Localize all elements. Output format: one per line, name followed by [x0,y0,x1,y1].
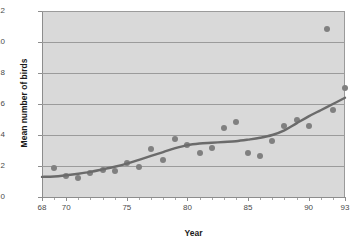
x-tick-minor [333,198,334,200]
data-point [197,150,203,156]
gridline-y [42,104,345,105]
y-tick-mark [38,166,42,167]
gridline-y [42,166,345,167]
x-tick-label: 85 [244,203,253,212]
x-tick-minor [163,198,164,200]
data-point [342,85,348,91]
x-tick-label: 90 [304,203,313,212]
y-tick-label: 10 [0,38,5,46]
y-tick-label: 6 [0,100,5,108]
x-tick-minor [103,198,104,200]
data-point [324,26,330,32]
x-tick-minor [297,198,298,200]
x-tick-mark [187,198,188,201]
y-tick-label: 8 [0,69,5,77]
x-tick-label: 70 [62,203,71,212]
x-tick-minor [78,198,79,200]
x-tick-minor [212,198,213,200]
x-tick-minor [200,198,201,200]
y-tick-mark [38,42,42,43]
data-point [233,119,239,125]
x-tick-minor [284,198,285,200]
data-point [160,157,166,163]
y-tick-label: 2 [0,162,5,170]
data-point [51,165,57,171]
y-tick-label: 0 [0,193,5,201]
x-axis-line [42,197,346,198]
x-tick-minor [139,198,140,200]
data-point [136,164,142,170]
bird-count-scatter-chart: 024681012 68707580859093 Mean number of … [0,0,352,247]
y-tick-mark [38,73,42,74]
x-tick-minor [321,198,322,200]
data-point [148,146,154,152]
x-tick-label: 93 [341,203,350,212]
x-tick-minor [260,198,261,200]
x-tick-mark [127,198,128,201]
x-tick-minor [115,198,116,200]
data-point [245,150,251,156]
x-tick-label: 80 [183,203,192,212]
gridline-y [42,135,345,136]
x-tick-minor [224,198,225,200]
y-tick-mark [38,11,42,12]
y-tick-label: 12 [0,7,5,15]
x-tick-minor [236,198,237,200]
gridline-y [42,42,345,43]
x-tick-minor [272,198,273,200]
y-tick-label: 4 [0,131,5,139]
data-point [294,117,300,123]
x-tick-minor [54,198,55,200]
x-tick-minor [151,198,152,200]
x-tick-label: 68 [38,203,47,212]
x-tick-label: 75 [122,203,131,212]
y-tick-mark [38,104,42,105]
gridline-y [42,73,345,74]
data-point [124,160,130,166]
data-point [100,167,106,173]
x-tick-mark [345,198,346,201]
data-point [209,145,215,151]
x-tick-minor [175,198,176,200]
y-axis-title: Mean number of birds [19,23,29,183]
x-tick-mark [42,198,43,201]
x-axis-title: Year [42,228,345,238]
gridline-y [42,11,345,12]
x-tick-mark [309,198,310,201]
x-tick-mark [66,198,67,201]
x-tick-minor [90,198,91,200]
y-tick-mark [38,135,42,136]
x-tick-mark [248,198,249,201]
data-point [221,125,227,131]
